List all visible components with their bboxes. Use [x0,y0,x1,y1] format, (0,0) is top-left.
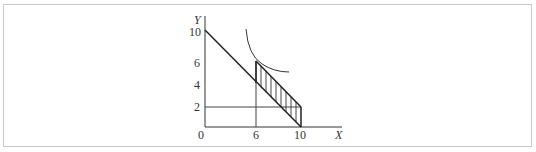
indifference-curve [246,29,289,72]
x-axis-label: X [334,128,343,142]
shifted-budget-segment [256,61,301,107]
y-tick-4: 4 [194,78,200,92]
budget-line [205,30,301,127]
y-tick-2: 2 [194,100,200,114]
x-tick-6: 6 [253,128,259,142]
x-tick-0: 0 [198,128,204,142]
diagram: Y 10 6 4 2 0 6 10 X [0,0,536,152]
x-tick-10: 10 [294,128,306,142]
y-tick-6: 6 [194,56,200,70]
y-tick-10: 10 [189,25,201,39]
